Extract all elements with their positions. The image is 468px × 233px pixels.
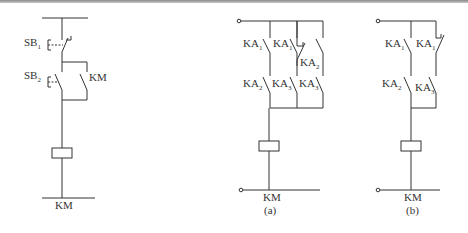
ka1-label: KA1	[385, 37, 405, 52]
terminal	[237, 19, 241, 23]
ka1-no-contact	[263, 39, 270, 53]
km-coil	[52, 148, 72, 158]
ka2-label: KA2	[382, 77, 402, 92]
ka1-label-nc: KA1	[416, 37, 436, 52]
km-coil-a	[259, 141, 279, 151]
terminal	[376, 19, 380, 23]
sb1-label: SB1	[24, 36, 41, 51]
sb1-stop-button-nc-contact	[48, 36, 71, 52]
ka2-no-contact	[404, 77, 411, 93]
ka2-label: KA2	[243, 77, 263, 92]
km-contact-label: KM	[89, 71, 107, 83]
ka3-label: KA3	[272, 77, 292, 92]
ka1-label: KA1	[243, 37, 263, 52]
ka3-label-2: KA3	[299, 77, 319, 92]
caption-a: (a)	[264, 204, 277, 217]
terminal	[239, 188, 243, 192]
terminal	[376, 188, 380, 192]
ka1-no-contact	[404, 39, 411, 53]
sb2-label: SB2	[24, 69, 41, 84]
circuit-a: KA1 KA2 KA1 KA3 KA2 KA3 KM (a)	[237, 19, 323, 217]
coil-label-a: KM	[263, 191, 281, 203]
circuit-diagram-canvas: SB1 SB2 KM KM KA1	[0, 0, 468, 233]
caption-b: (b)	[406, 204, 419, 217]
coil-label: KM	[55, 199, 73, 211]
contact	[316, 39, 323, 53]
ka2-label-nc: KA2	[300, 56, 320, 71]
km-coil-b	[401, 141, 421, 151]
ka2-no-contact	[263, 77, 270, 93]
circuit-b: KA1 KA2 KA1 KA3 KM (b)	[376, 19, 444, 217]
left-circuit: SB1 SB2 KM KM	[24, 18, 107, 211]
coil-label-b: KM	[404, 191, 422, 203]
sb2-start-button-no-contact	[48, 74, 62, 90]
km-hold-contact	[80, 74, 87, 90]
